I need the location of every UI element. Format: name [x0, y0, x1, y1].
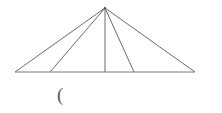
- ray-to-foot-3: [105, 8, 134, 72]
- ray-to-foot-1: [50, 8, 105, 72]
- ray-to-right-endpoint: [105, 8, 195, 72]
- figure-canvas: (: [0, 0, 222, 113]
- ray-group: [15, 8, 195, 72]
- geometry-figure: [0, 0, 222, 113]
- ray-to-left-endpoint: [15, 8, 105, 72]
- open-paren-mark: (: [57, 85, 63, 104]
- apex-vertex: [104, 7, 106, 9]
